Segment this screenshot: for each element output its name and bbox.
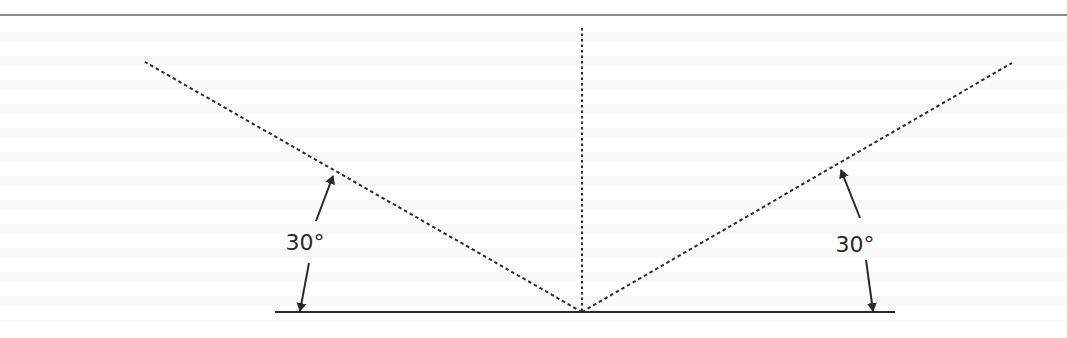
right-angle-arrow-up-icon <box>841 170 860 218</box>
reflection-diagram: 30° 30° <box>0 0 1067 338</box>
left-angle-label: 30° <box>286 230 325 255</box>
right-angle-label: 30° <box>836 232 875 257</box>
left-angle-arrow-up-icon <box>316 176 333 221</box>
right-angle-arrow-down-icon <box>866 260 873 311</box>
incident-ray <box>145 62 582 312</box>
diagram-canvas: 30° 30° <box>0 0 1067 338</box>
left-angle-arrow-down-icon <box>300 263 309 311</box>
reflected-ray <box>582 63 1012 312</box>
